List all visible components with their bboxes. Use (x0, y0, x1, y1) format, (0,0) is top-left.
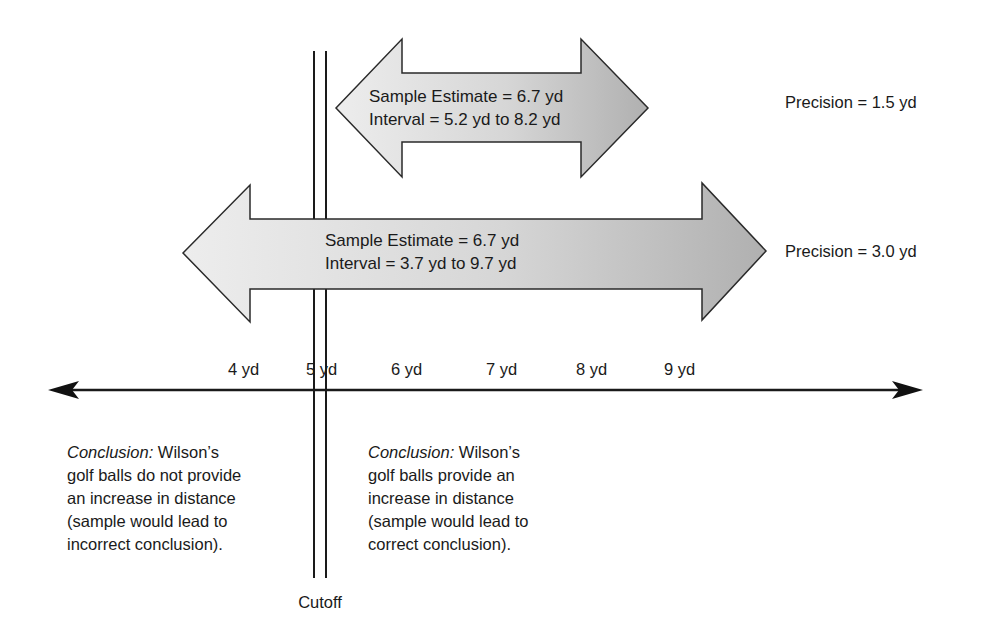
cutoff-label: Cutoff (298, 593, 342, 611)
axis-tick-labels: 4 yd 5 yd 6 yd 7 yd 8 yd 9 yd (228, 360, 695, 378)
bottom-interval-arrow (183, 183, 766, 322)
conclusion-text: (sample would lead to (368, 510, 529, 533)
conclusion-text: increase in distance (368, 487, 529, 510)
distance-axis (48, 381, 923, 399)
conclusion-text: golf balls provide an (368, 464, 529, 487)
bottom-arrow-interval: Interval = 3.7 yd to 9.7 yd (325, 254, 516, 273)
tick-label: 4 yd (228, 360, 259, 378)
top-precision-label: Precision = 1.5 yd (785, 93, 917, 111)
conclusion-prefix: Conclusion: (67, 443, 153, 461)
tick-label: 7 yd (486, 360, 517, 378)
conclusion-text: golf balls do not provide (67, 464, 241, 487)
bottom-arrow-estimate: Sample Estimate = 6.7 yd (325, 231, 519, 250)
conclusion-prefix: Conclusion: (368, 443, 454, 461)
top-arrow-estimate: Sample Estimate = 6.7 yd (369, 87, 563, 106)
tick-label: 9 yd (664, 360, 695, 378)
bottom-precision-label: Precision = 3.0 yd (785, 242, 917, 260)
cutoff-line (314, 51, 326, 578)
left-conclusion: Conclusion: Wilson’s golf balls do not p… (67, 441, 241, 556)
conclusion-text: Wilson’s (153, 443, 219, 461)
top-arrow-interval: Interval = 5.2 yd to 8.2 yd (369, 110, 560, 129)
conclusion-text: Wilson’s (454, 443, 520, 461)
conclusion-text: (sample would lead to (67, 510, 241, 533)
conclusion-text: correct conclusion). (368, 533, 529, 556)
tick-label: 6 yd (391, 360, 422, 378)
top-interval-arrow (336, 39, 648, 177)
right-conclusion: Conclusion: Wilson’s golf balls provide … (368, 441, 529, 556)
tick-label: 5 yd (306, 360, 337, 378)
conclusion-text: an increase in distance (67, 487, 241, 510)
tick-label: 8 yd (576, 360, 607, 378)
conclusion-text: incorrect conclusion). (67, 533, 241, 556)
